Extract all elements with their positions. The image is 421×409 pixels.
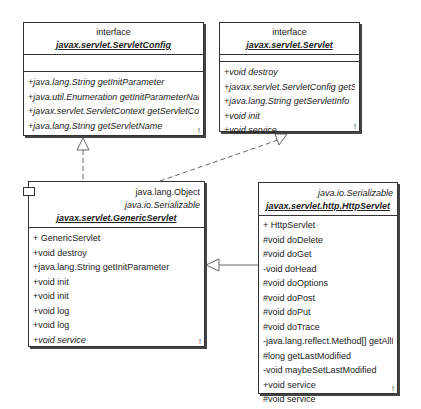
operation: -void doHead: [263, 262, 393, 277]
interface-label: java.io.Serializable: [263, 187, 393, 200]
operation: +void service: [33, 333, 200, 348]
operations-compartment: + GenericServlet +void destroy +java.lan…: [29, 228, 204, 350]
more-indicator-icon: !: [392, 385, 394, 392]
operation: +void init: [224, 109, 355, 124]
stereotype-label: interface: [28, 26, 199, 39]
operation: +void destroy: [33, 246, 200, 261]
operation: +java.util.Enumeration getInitParameterN…: [28, 90, 199, 105]
operation: +void init: [33, 289, 200, 304]
class-name: javax.servlet.GenericServlet: [33, 212, 200, 225]
operation: #long getLastModified: [263, 349, 393, 364]
realization-arrowhead-servletconfig: [77, 138, 89, 150]
operation: +void init: [33, 275, 200, 290]
operations-compartment: + HttpServlet #void doDelete #void doGet…: [259, 216, 397, 409]
class-http-servlet[interactable]: java.io.Serializable javax.servlet.http.…: [258, 182, 398, 394]
operations-compartment: +java.lang.String getInitParameter +java…: [24, 72, 203, 136]
operation: #void doDelete: [263, 233, 393, 248]
class-header: interface javax.servlet.ServletConfig: [24, 23, 203, 55]
operation: +void destroy: [224, 65, 355, 80]
operation: +java.lang.String getServletInfo: [224, 94, 355, 109]
operation: #void doTrace: [263, 320, 393, 335]
class-name: javax.servlet.http.HttpServlet: [263, 200, 393, 213]
operation: +javax.servlet.ServletContext getServlet…: [28, 104, 199, 119]
class-header: interface javax.servlet.Servlet: [220, 23, 359, 55]
operation: +java.lang.String getInitParameter: [33, 260, 200, 275]
operation: #void service: [263, 392, 393, 407]
class-name: javax.servlet.Servlet: [224, 39, 355, 52]
operation: +void log: [33, 318, 200, 333]
attributes-compartment: [220, 55, 359, 62]
class-generic-servlet[interactable]: java.lang.Object java.io.Serializable ja…: [28, 181, 205, 347]
operations-compartment: +void destroy +javax.servlet.ServletConf…: [220, 62, 359, 141]
operation: + GenericServlet: [33, 231, 200, 246]
operation: +java.lang.String getServletName: [28, 119, 199, 134]
superclass-label: java.lang.Object: [33, 186, 200, 199]
operation: +java.lang.String getInitParameter: [28, 75, 199, 90]
operation: #void doPost: [263, 291, 393, 306]
operation: +void service: [224, 123, 355, 138]
class-header: java.lang.Object java.io.Serializable ja…: [29, 182, 204, 228]
class-name: javax.servlet.ServletConfig: [28, 39, 199, 52]
operation: +void service: [263, 378, 393, 393]
interface-label: java.io.Serializable: [33, 199, 200, 212]
component-tab-icon: [23, 187, 35, 196]
stereotype-label: interface: [224, 26, 355, 39]
operation: #void doOptions: [263, 276, 393, 291]
operation: #void doGet: [263, 247, 393, 262]
generalization-arrowhead: [206, 259, 219, 271]
more-indicator-icon: !: [354, 123, 356, 130]
class-servlet-config[interactable]: interface javax.servlet.ServletConfig +j…: [23, 22, 204, 136]
operation: +javax.servlet.ServletConfig getServletC…: [224, 80, 355, 95]
class-servlet[interactable]: interface javax.servlet.Servlet +void de…: [219, 22, 360, 132]
operation: #void doPut: [263, 305, 393, 320]
operation: +void log: [33, 304, 200, 319]
class-header: java.io.Serializable javax.servlet.http.…: [259, 183, 397, 216]
more-indicator-icon: !: [199, 338, 201, 345]
attributes-compartment: [24, 55, 203, 72]
operation: -void maybeSetLastModified: [263, 363, 393, 378]
operation: + HttpServlet: [263, 218, 393, 233]
operation: -java.lang.reflect.Method[] getAllDeclar…: [263, 334, 393, 349]
realization-line-servlet: [160, 140, 278, 181]
more-indicator-icon: !: [198, 127, 200, 134]
